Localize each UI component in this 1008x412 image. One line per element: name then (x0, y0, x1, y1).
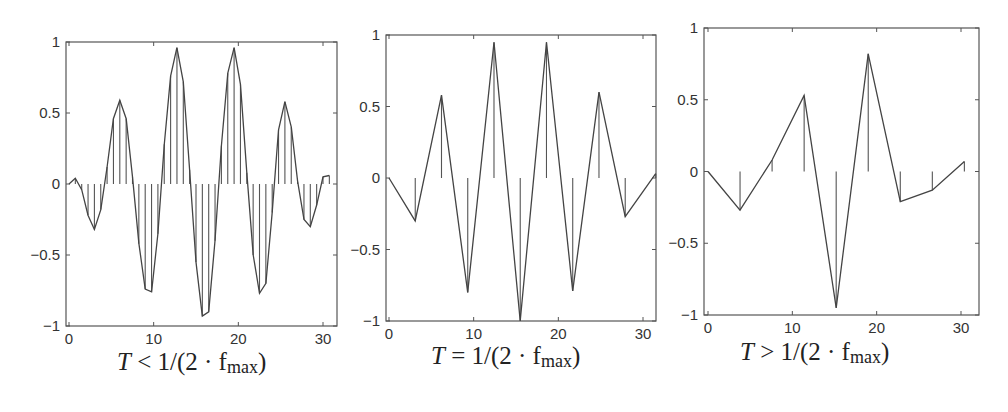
y-tick-label: 0 (52, 175, 60, 192)
panel-2: −1−0.500.510102030 (350, 26, 656, 342)
caption-expression: 1/(2 · f (781, 338, 850, 365)
y-tick-label: −0.5 (668, 234, 698, 251)
figure: −1−0.500.510102030−1−0.500.510102030−1−0… (0, 0, 1008, 412)
panel-3-caption: T > 1/(2 · fmax) (740, 338, 889, 368)
y-tick-label: 1 (690, 19, 698, 36)
x-tick-label: 20 (868, 319, 885, 336)
caption-relation: = (451, 342, 465, 369)
caption-expression: 1/(2 · f (472, 342, 541, 369)
x-tick-label: 0 (65, 330, 73, 347)
x-tick-label: 30 (315, 330, 332, 347)
panel-1-caption: T < 1/(2 · fmax) (117, 348, 266, 378)
caption-close: ) (258, 348, 266, 375)
y-tick-label: 1 (372, 26, 380, 43)
caption-variable: T (431, 342, 445, 369)
caption-subscript: max (227, 357, 258, 377)
panel-2-caption: T = 1/(2 · fmax) (431, 342, 580, 372)
y-tick-label: 1 (52, 33, 60, 50)
panel-3: −1−0.500.510102030 (668, 19, 979, 336)
x-tick-label: 20 (230, 330, 247, 347)
y-tick-label: −0.5 (30, 246, 60, 263)
caption-subscript: max (850, 347, 881, 367)
y-tick-label: −0.5 (350, 241, 380, 258)
caption-relation: > (760, 338, 774, 365)
y-tick-label: 0.5 (677, 91, 698, 108)
x-tick-label: 10 (465, 325, 482, 342)
x-tick-label: 30 (953, 319, 970, 336)
x-tick-label: 10 (784, 319, 801, 336)
caption-variable: T (117, 348, 131, 375)
y-tick-label: 0 (372, 169, 380, 186)
axes-frame (386, 35, 656, 321)
signal-line (389, 42, 656, 321)
caption-close: ) (881, 338, 889, 365)
panel-1: −1−0.500.510102030 (30, 33, 337, 347)
axes-frame (704, 28, 979, 315)
x-tick-label: 30 (635, 325, 652, 342)
caption-close: ) (572, 342, 580, 369)
signal-line (69, 48, 329, 316)
y-tick-label: 0.5 (359, 98, 380, 115)
x-tick-label: 0 (385, 325, 393, 342)
x-tick-label: 0 (704, 319, 712, 336)
caption-variable: T (740, 338, 754, 365)
caption-expression: 1/(2 · f (158, 348, 227, 375)
x-tick-label: 10 (145, 330, 162, 347)
y-tick-label: −1 (681, 306, 698, 323)
y-tick-label: 0.5 (39, 104, 60, 121)
x-tick-label: 20 (550, 325, 567, 342)
y-tick-label: 0 (690, 163, 698, 180)
y-tick-label: −1 (363, 312, 380, 329)
caption-relation: < (137, 348, 151, 375)
y-tick-label: −1 (43, 317, 60, 334)
caption-subscript: max (541, 351, 572, 371)
